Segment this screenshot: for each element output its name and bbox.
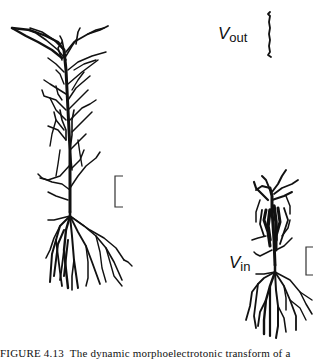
right-scale-bar [306,247,313,275]
caption-number: FIGURE 4.13 [0,347,64,359]
neuron-drawings [0,0,324,348]
vin-label: Vin [229,253,250,274]
vout-trace [268,12,271,57]
vout-symbol: V [218,24,229,43]
vout-label: Vout [218,24,247,45]
left-neuron-apical-dendrites [12,26,108,212]
left-scale-bar [115,176,123,207]
left-neuron-basal-dendrites [46,212,132,290]
caption-text: The dynamic morphoelectrotonic transform… [70,347,291,359]
vout-subscript: out [229,30,247,45]
vin-subscript: in [240,259,250,274]
right-neuron-apical-dendrites [252,170,298,265]
right-neuron-basal-dendrites [246,265,312,338]
figure-caption: FIGURE 4.13 The dynamic morphoelectroton… [0,347,324,360]
neuron-figure: Vout Vin [0,0,324,348]
vin-symbol: V [229,253,240,272]
